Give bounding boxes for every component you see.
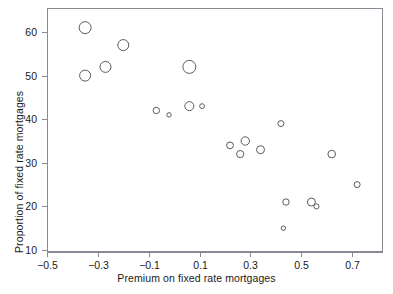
x-tick-label: −0.5 xyxy=(37,259,58,271)
y-tick-labels: 102030405060 xyxy=(25,26,37,256)
data-point-circle xyxy=(100,61,111,72)
data-point-circle xyxy=(167,113,171,117)
data-point-circle xyxy=(153,107,159,113)
y-tick-label: 30 xyxy=(25,157,37,169)
data-point-circle xyxy=(354,182,360,188)
x-tick-labels: −0.5−0.3−0.10.10.30.50.7 xyxy=(37,259,360,271)
y-tick-label: 10 xyxy=(25,244,37,256)
y-tick-label: 20 xyxy=(25,200,37,212)
data-point-circle xyxy=(237,150,244,157)
x-tick-label: −0.1 xyxy=(139,259,160,271)
data-point-circle xyxy=(118,40,129,51)
scatter-plot-figure: −0.5−0.3−0.10.10.30.50.7 102030405060 Pr… xyxy=(0,0,393,294)
x-tick-label: 0.7 xyxy=(345,259,360,271)
data-point-circle xyxy=(241,137,249,145)
y-tick-label: 40 xyxy=(25,113,37,125)
data-point-circle xyxy=(278,121,284,127)
x-tick-label: 0.3 xyxy=(243,259,258,271)
data-point-circle xyxy=(200,104,205,109)
x-tick-label: −0.3 xyxy=(88,259,109,271)
data-point-circle xyxy=(283,199,289,205)
data-point-circle xyxy=(257,146,265,154)
data-point-circle xyxy=(281,226,285,230)
plot-canvas: −0.5−0.3−0.10.10.30.50.7 102030405060 xyxy=(0,0,393,294)
data-point-circle xyxy=(227,142,234,149)
data-point-circle xyxy=(314,204,319,209)
data-point-circle xyxy=(183,60,196,73)
data-point-circle xyxy=(328,150,336,158)
y-tick-label: 50 xyxy=(25,70,37,82)
x-tick-label: 0.1 xyxy=(193,259,208,271)
x-axis: −0.5−0.3−0.10.10.30.50.7 xyxy=(37,252,383,271)
y-tick-label: 60 xyxy=(25,26,37,38)
y-axis-title: Proportion of fixed rate mortgages xyxy=(13,91,25,253)
data-points xyxy=(79,22,360,231)
y-tick-marks xyxy=(42,33,47,251)
data-point-circle xyxy=(79,22,91,34)
data-point-circle xyxy=(185,102,194,111)
data-point-circle xyxy=(80,70,91,81)
x-axis-title: Premium on fixed rate mortgages xyxy=(0,272,393,284)
y-axis: 102030405060 xyxy=(25,26,47,256)
plot-frame xyxy=(48,9,383,252)
x-tick-label: 0.5 xyxy=(294,259,309,271)
